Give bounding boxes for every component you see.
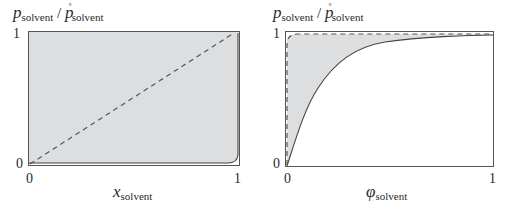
left-y-axis-label: psolvent / p°solvent — [12, 2, 103, 23]
left-x-axis-label: xsolvent — [112, 182, 152, 202]
figure: 1 0 0 1 psolvent / p°solvent xsolvent 1 … — [0, 0, 508, 208]
left-y-tick-1: 1 — [13, 26, 20, 41]
left-chart: 1 0 0 1 psolvent / p°solvent xsolvent — [12, 2, 241, 202]
left-x-tick-1: 1 — [234, 171, 241, 186]
right-y-axis-label: psolvent / p°solvent — [272, 2, 363, 23]
left-y-tick-0: 0 — [16, 156, 23, 171]
right-x-tick-0: 0 — [284, 171, 291, 186]
right-shaded-region — [287, 34, 494, 166]
right-x-axis-label: φsolvent — [366, 182, 407, 202]
right-y-tick-1: 1 — [273, 26, 280, 41]
right-x-tick-1: 1 — [489, 171, 496, 186]
right-y-tick-0: 0 — [273, 156, 280, 171]
right-chart: 1 0 0 1 psolvent / p°solvent φsolvent — [272, 2, 496, 202]
left-x-tick-0: 0 — [26, 171, 33, 186]
